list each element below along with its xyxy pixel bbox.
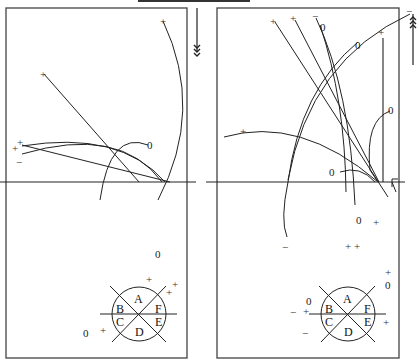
zero-label: 0: [320, 21, 326, 33]
sector-a: A: [134, 292, 143, 306]
sector-f: F: [364, 302, 371, 316]
right-panel: + + − 0 0 + − 0 + 0 0 + + + − + 0 0 + − …: [206, 5, 412, 358]
plus-mark: +: [303, 305, 309, 317]
minus-mark: −: [282, 241, 288, 253]
diagram-canvas: + + + + − 0 0 + + + 0 + A B C D E F: [0, 0, 419, 362]
minus-mark: −: [290, 306, 296, 318]
right-arc-3: [224, 132, 378, 182]
sector-f: F: [155, 302, 162, 316]
down-arrow-icon: [194, 8, 200, 56]
minus-mark: −: [406, 5, 412, 17]
sector-b: B: [116, 302, 124, 316]
sector-d: D: [135, 325, 144, 339]
plus-mark: +: [172, 278, 178, 290]
left-arc-large: [158, 21, 183, 200]
zero-label: 0: [356, 214, 362, 226]
right-corner-mark: [392, 179, 398, 192]
left-diagonal-line: [44, 74, 139, 182]
minus-mark: −: [312, 10, 318, 22]
right-arc-long: [288, 14, 410, 180]
right-arc-2: [284, 42, 358, 237]
right-curve: [316, 18, 355, 205]
plus-mark: +: [12, 142, 18, 154]
sector-c: C: [116, 315, 124, 329]
sector-e: E: [155, 315, 162, 329]
left-arc-loop: [100, 142, 148, 200]
left-panel: + + + + − 0 0 + + + 0 + A B C D E F: [0, 8, 196, 358]
up-arrow-icon: [410, 14, 416, 65]
sector-a: A: [343, 292, 352, 306]
plus-mark: +: [40, 68, 46, 80]
sector-c: C: [325, 315, 333, 329]
zero-label: 0: [388, 104, 394, 116]
sector-d: D: [344, 325, 353, 339]
right-compass: A B C D E F: [309, 286, 386, 342]
zero-label: 0: [385, 279, 391, 291]
plus-mark: +: [146, 273, 152, 285]
plus-mark: +: [385, 266, 391, 278]
zero-label: 0: [147, 139, 153, 151]
zero-label: 0: [83, 327, 89, 339]
plus-mark: +: [240, 125, 246, 137]
plus-mark: +: [378, 26, 384, 38]
minus-mark: −: [16, 156, 22, 168]
zero-label: 0: [355, 39, 361, 51]
plus-mark: +: [345, 240, 351, 252]
plus-mark: +: [166, 286, 172, 298]
plus-mark: +: [383, 316, 389, 328]
zero-label: 0: [329, 166, 335, 178]
minus-mark: −: [302, 327, 308, 339]
sector-e: E: [364, 315, 371, 329]
right-arc-4: [369, 111, 390, 182]
plus-mark: +: [270, 15, 276, 27]
sector-b: B: [325, 302, 333, 316]
plus-mark: +: [354, 240, 360, 252]
plus-mark: +: [373, 216, 379, 228]
zero-label: 0: [155, 248, 161, 260]
plus-mark: +: [160, 15, 166, 27]
right-line: [295, 20, 379, 182]
plus-mark: +: [100, 324, 106, 336]
plus-mark: +: [290, 12, 296, 24]
